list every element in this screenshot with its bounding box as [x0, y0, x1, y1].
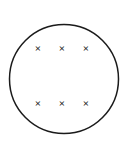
figure-canvas: ×××××× — [0, 0, 133, 159]
field-into-page-mark: × — [35, 98, 41, 109]
field-into-page-mark: × — [35, 43, 41, 54]
field-into-page-mark: × — [59, 98, 65, 109]
field-into-page-mark: × — [59, 43, 65, 54]
field-into-page-mark: × — [83, 98, 89, 109]
figure-vector-layer — [0, 0, 133, 159]
field-into-page-mark: × — [83, 43, 89, 54]
